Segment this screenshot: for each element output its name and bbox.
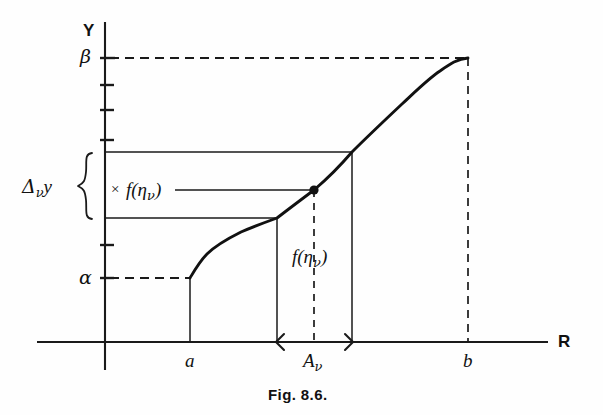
A-subscript: ν <box>315 359 323 374</box>
beta-tick-label: β <box>80 47 91 66</box>
delta-nu-y-label: Δνy <box>22 177 52 200</box>
f-eta-mid-tail: ) <box>321 246 327 267</box>
delta-y-glyph: y <box>44 176 52 197</box>
x-axis-label: R <box>558 333 570 350</box>
alpha-tick-label: α <box>79 268 92 287</box>
y-axis-ticks <box>100 58 115 278</box>
delta-subscript: ν <box>36 185 44 200</box>
y-axis-label: Y <box>83 22 94 39</box>
delta-y-brace <box>78 153 92 219</box>
f-eta-mid-subscript: ν <box>313 255 321 270</box>
x-tick-label-A-nu: Aν <box>303 351 322 374</box>
figure-caption: Fig. 8.6. <box>268 386 327 403</box>
f-eta-left-label: f(ην) <box>126 180 161 203</box>
f-eta-mid-head: f(η <box>292 246 313 267</box>
function-curve <box>190 58 468 278</box>
f-eta-left-subscript: ν <box>147 188 155 203</box>
A-glyph: A <box>303 350 315 371</box>
eta-cross-glyph: × <box>111 181 119 197</box>
f-eta-left-tail: ) <box>155 179 161 200</box>
eta-nu-point-dot <box>309 185 318 194</box>
x-tick-label-a: a <box>185 351 195 370</box>
eta-cross-mark: × <box>111 182 119 197</box>
f-eta-left-head: f(η <box>126 179 147 200</box>
delta-glyph: Δ <box>22 175 36 197</box>
figure-container: Y R β α × Δνy f(ην) f(ην) a Aν b Fig. 8.… <box>0 0 603 415</box>
x-tick-label-b: b <box>463 351 473 370</box>
f-eta-mid-label: f(ην) <box>292 247 327 270</box>
